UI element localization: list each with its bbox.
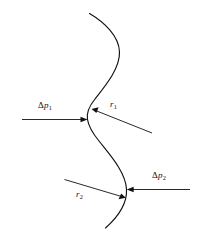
label-r1-subscript: 1 — [114, 103, 117, 110]
label-delta-p2-subscript: 2 — [163, 174, 166, 181]
force-arrow-dp2-head — [127, 187, 134, 192]
label-r2: r2 — [76, 190, 83, 199]
force-arrow-dp1-head — [81, 117, 88, 122]
radius-leader-r1-shaft — [96, 111, 153, 134]
diagram-svg — [0, 0, 197, 241]
label-r1: r1 — [110, 100, 117, 109]
label-delta-p2: Δp2 — [152, 171, 166, 180]
label-r2-subscript: 2 — [80, 193, 83, 200]
label-delta-p1: Δp1 — [38, 101, 52, 110]
label-delta-p1-subscript: 1 — [49, 104, 52, 111]
radius-leader-r1-head — [92, 107, 99, 113]
radius-leader-r2-shaft — [65, 180, 122, 197]
figure-canvas: Δp1 r1 r2 Δp2 — [0, 0, 197, 241]
